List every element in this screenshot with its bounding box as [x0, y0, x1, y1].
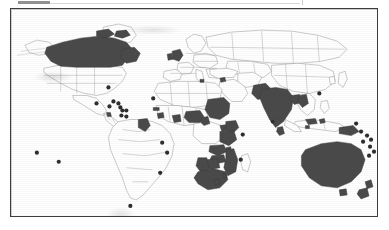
marker-ascension [165, 151, 169, 155]
region-south-america [108, 120, 174, 200]
marker-saint-lucia [120, 108, 124, 112]
marker-pitcairn [35, 151, 39, 155]
highlight-swaziland [223, 174, 227, 178]
highlight-malta [200, 79, 204, 82]
highlight-new-zealand-north [365, 180, 373, 189]
region-philippines [320, 100, 329, 113]
region-scandinavia [186, 34, 206, 53]
marker-samoa [372, 150, 376, 154]
marker-pacific-outlier [57, 160, 61, 164]
highlight-ireland [167, 53, 173, 60]
marker-tonga [367, 154, 371, 158]
highlight-sri-lanka [277, 127, 285, 136]
scan-artifact-tick [302, 0, 303, 5]
highlight-sudan [205, 97, 230, 119]
marker-maldives [271, 120, 275, 124]
marker-grenada [119, 113, 123, 117]
highlight-new-zealand-south [357, 188, 369, 199]
region-madagascar [241, 154, 251, 172]
marker-jamaica [107, 104, 111, 108]
marker-solomon-islands [359, 129, 363, 133]
figure-frame: Greyscale world map with selected countr… [10, 8, 378, 217]
marker-kiribati [369, 138, 373, 142]
region-russia [206, 30, 347, 63]
marker-mauritius [239, 158, 243, 162]
figure-page: Greyscale world map with selected countr… [0, 0, 389, 230]
highlight-singapore [305, 126, 309, 129]
scan-artifact-bar [18, 1, 50, 4]
highlight-united-kingdom [172, 49, 183, 61]
marker-bermuda [106, 85, 110, 89]
marker-saint-kitts-and-nevis [111, 99, 115, 103]
highlight-canada [45, 36, 133, 67]
highlight-australia [301, 142, 365, 188]
highlight-zambia [209, 145, 227, 156]
region-central-africa [193, 122, 224, 144]
marker-barbados [124, 108, 128, 112]
world-map-graphic[interactable]: .land { fill:#ffffff; stroke:#8a8a8a; st… [11, 9, 377, 216]
marker-antigua-and-barbuda [116, 101, 120, 105]
marker-nauru [354, 121, 358, 125]
highlight-sierra-leone [157, 113, 164, 119]
region-central-europe [193, 53, 218, 68]
highlight-cyprus [220, 77, 226, 82]
highlight-belize [106, 113, 111, 117]
marker-fiji [368, 145, 372, 149]
marker-vanuatu [361, 140, 365, 144]
highlight-gambia [153, 107, 159, 110]
highlight-brunei [319, 119, 325, 124]
scan-artifact-line [50, 3, 300, 4]
region-indonesia [293, 120, 345, 132]
region-usa [44, 64, 127, 95]
marker-seychelles [241, 132, 245, 136]
highlight-tasmania [339, 189, 347, 196]
marker-trinidad-and-tobago [124, 114, 128, 118]
highlight-papua-new-guinea [339, 126, 359, 136]
marker-bahamas [94, 101, 98, 105]
marker-falkland-islands [128, 204, 132, 208]
region-mexico [73, 95, 107, 115]
marker-cape-verde [151, 96, 155, 100]
highlight-south-africa [194, 169, 228, 190]
marker-tuvalu [365, 134, 369, 138]
region-japan [338, 71, 347, 87]
highlight-lesotho [214, 179, 220, 185]
map-viewport[interactable]: Greyscale world map with selected countr… [11, 9, 377, 216]
region-korea [329, 76, 335, 84]
highlight-tanzania [220, 131, 237, 146]
marker-saint-helena [160, 141, 164, 145]
marker-hong-kong [317, 91, 321, 95]
marker-tristan-da-cunha [158, 171, 162, 175]
